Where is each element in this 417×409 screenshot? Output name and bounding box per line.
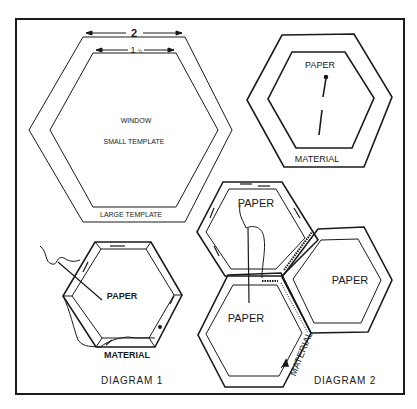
- large-template-hexagon: [29, 37, 232, 222]
- dimension-label-1-whole: 1: [130, 45, 135, 55]
- small-template-hexagon: [50, 53, 218, 207]
- pin-icon: [323, 78, 326, 97]
- material-label-diagram-1: MATERIAL: [104, 350, 150, 360]
- paper-label-diagram-2-bottom: PAPER: [228, 312, 265, 324]
- paper-label-top-right: PAPER: [305, 60, 335, 70]
- thread-diagram-2: [240, 205, 265, 278]
- material-label-top-right: MATERIAL: [295, 154, 339, 164]
- paper-label-diagram-1: PAPER: [107, 291, 138, 301]
- hexagon-quilting-diagram: 2 1 ½ WINDOW SMALL TEMPLATE LARGE TEMPLA…: [0, 0, 417, 409]
- templates-figure: [29, 31, 232, 222]
- thread: [40, 246, 80, 264]
- diagram-1-caption: DIAGRAM 1: [101, 375, 163, 386]
- dimension-label-2: 2: [131, 27, 137, 39]
- paper-on-material-figure: [247, 34, 392, 167]
- material-folded-edge: [63, 296, 155, 347]
- needle-icon-diagram-2: [248, 228, 249, 303]
- paper-label-diagram-2-right: PAPER: [332, 274, 369, 286]
- small-template-label: SMALL TEMPLATE: [104, 138, 165, 145]
- window-label: WINDOW: [121, 117, 152, 124]
- diagram-2-caption: DIAGRAM 2: [314, 375, 376, 386]
- paper-label-diagram-2-top: PAPER: [238, 197, 275, 209]
- large-template-label: LARGE TEMPLATE: [100, 211, 162, 218]
